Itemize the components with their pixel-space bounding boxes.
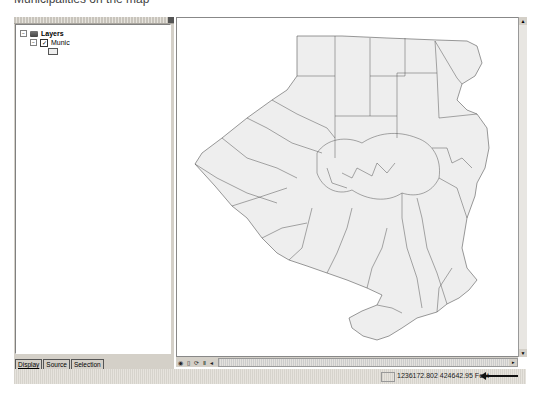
vertical-scrollbar[interactable]: ▲ ▼	[518, 17, 527, 357]
data-view-icon[interactable]: ◉	[178, 359, 183, 366]
scroll-left-icon[interactable]: ◂	[210, 359, 213, 366]
map-view-toolbar: ◉ ▯ ⟳ Ⅱ ◂ ▸	[176, 357, 518, 367]
county-outline	[195, 36, 489, 340]
caption-text: Municipalities on the map	[14, 0, 149, 6]
horizontal-scrollbar[interactable]: ▸	[218, 358, 518, 367]
collapse-icon[interactable]: −	[30, 39, 37, 46]
table-of-contents-panel: − Layers − ✓ Munic Display Source Select…	[14, 17, 174, 374]
coordinate-readout: 1236172.802 424642.95 Feet	[397, 372, 489, 379]
status-message-field	[381, 372, 395, 382]
layers-icon	[30, 31, 38, 37]
tree-node-munic[interactable]: − ✓ Munic	[30, 38, 70, 47]
layer-visibility-checkbox[interactable]: ✓	[40, 39, 48, 47]
map-view[interactable]	[176, 17, 519, 357]
toc-titlebar[interactable]	[14, 17, 174, 24]
layer-symbol-swatch[interactable]	[48, 48, 58, 55]
scroll-up-icon[interactable]: ▲	[519, 17, 527, 25]
annotation-arrow	[484, 375, 518, 377]
municipalities-map[interactable]	[177, 18, 518, 356]
pause-icon[interactable]: Ⅱ	[203, 359, 206, 366]
layout-view-icon[interactable]: ▯	[187, 359, 190, 366]
scroll-down-icon[interactable]: ▼	[519, 349, 527, 357]
tree-node-layers[interactable]: − Layers	[20, 29, 70, 38]
refresh-icon[interactable]: ⟳	[194, 359, 199, 366]
layer-label[interactable]: Munic	[51, 39, 70, 46]
collapse-icon[interactable]: −	[20, 30, 27, 37]
close-icon[interactable]	[168, 17, 174, 23]
layers-label: Layers	[41, 30, 64, 37]
toc-tree-area: − Layers − ✓ Munic	[15, 24, 171, 354]
scroll-right-icon[interactable]: ▸	[509, 359, 517, 366]
status-bar: 1236172.802 424642.95 Feet	[14, 369, 526, 384]
